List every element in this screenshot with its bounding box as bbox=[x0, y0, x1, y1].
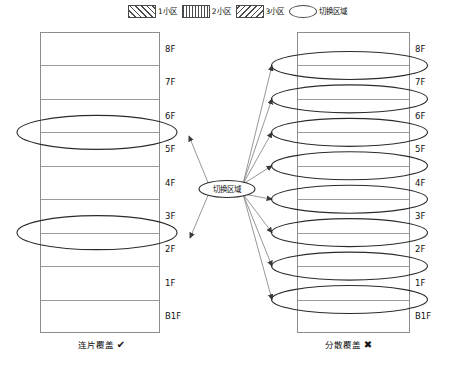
left-floor-label-4f: 4F bbox=[165, 178, 175, 188]
hatch-vertical-swatch-icon bbox=[182, 5, 210, 18]
floor-b1f bbox=[298, 301, 409, 334]
left-floor-label-3f: 3F bbox=[165, 211, 175, 221]
right-caption-text: 分散覆盖 bbox=[325, 340, 361, 350]
floor-7f bbox=[298, 66, 409, 99]
cross-icon: ✖ bbox=[364, 339, 372, 350]
floor-1f bbox=[298, 267, 409, 300]
right-floor-label-6f: 6F bbox=[415, 111, 425, 121]
ray-to-right-zone-4 bbox=[243, 166, 272, 184]
ray-to-right-zone-8 bbox=[243, 194, 272, 300]
floor-4f bbox=[298, 167, 409, 200]
floor-5f bbox=[298, 133, 409, 166]
legend: 1小区 2小区 3小区 切换区域 bbox=[128, 3, 347, 19]
handover-rays bbox=[189, 65, 272, 299]
ellipse-swatch-icon bbox=[289, 5, 317, 18]
check-icon: ✔ bbox=[117, 339, 125, 350]
floor-5f bbox=[41, 133, 159, 166]
floor-7f bbox=[41, 66, 159, 99]
floor-3f bbox=[298, 200, 409, 233]
legend-label-2: 2小区 bbox=[212, 7, 231, 16]
right-floor-label-b1f: B1F bbox=[415, 311, 431, 321]
right-floor-label-8f: 8F bbox=[415, 44, 425, 54]
left-floor-label-2f: 2F bbox=[165, 244, 175, 254]
ray-to-right-zone-3 bbox=[243, 132, 272, 184]
legend-item-2: 2小区 bbox=[182, 5, 231, 18]
floor-8f bbox=[298, 33, 409, 66]
left-floor-label-8f: 8F bbox=[165, 44, 175, 54]
right-building bbox=[297, 32, 410, 333]
right-floor-label-4f: 4F bbox=[415, 178, 425, 188]
right-building-caption: 分散覆盖 ✖ bbox=[325, 339, 372, 351]
floor-2f bbox=[298, 234, 409, 267]
left-floor-label-6f: 6F bbox=[165, 111, 175, 121]
hatch-forward-slash-swatch-icon bbox=[128, 5, 156, 18]
center-node-label: 切换区域 bbox=[213, 184, 242, 194]
right-floor-label-2f: 2F bbox=[415, 244, 425, 254]
legend-item-4: 切换区域 bbox=[289, 5, 347, 18]
floor-4f bbox=[41, 167, 159, 200]
ray-to-right-zone-2 bbox=[243, 99, 272, 184]
ray-to-right-zone-5 bbox=[243, 194, 272, 199]
hatch-back-slash-swatch-icon bbox=[236, 5, 264, 18]
left-caption-text: 连片覆盖 bbox=[78, 340, 114, 350]
left-floor-label-b1f: B1F bbox=[165, 311, 181, 321]
right-floor-label-5f: 5F bbox=[415, 144, 425, 154]
ray-to-right-zone-6 bbox=[243, 194, 272, 233]
left-building-caption: 连片覆盖 ✔ bbox=[78, 339, 125, 351]
center-handover-node bbox=[199, 181, 255, 198]
legend-label-1: 1小区 bbox=[158, 7, 177, 16]
left-building bbox=[40, 32, 160, 333]
diagram-canvas: 1小区 2小区 3小区 切换区域 8F7F6F5F4F3F2F1FB1F8F7F… bbox=[0, 0, 458, 375]
floor-6f bbox=[298, 100, 409, 133]
floor-8f bbox=[41, 33, 159, 66]
left-floor-label-7f: 7F bbox=[165, 77, 175, 87]
ray-to-right-zone-1 bbox=[243, 65, 272, 184]
right-floor-label-1f: 1F bbox=[415, 278, 425, 288]
legend-label-3: 3小区 bbox=[266, 7, 285, 16]
floor-6f bbox=[41, 100, 159, 133]
ray-to-left-zone-2 bbox=[190, 193, 209, 238]
floor-1f bbox=[41, 267, 159, 300]
floor-b1f bbox=[41, 301, 159, 334]
floor-2f bbox=[41, 234, 159, 267]
legend-item-1: 1小区 bbox=[128, 5, 177, 18]
legend-item-3: 3小区 bbox=[236, 5, 285, 18]
right-floor-label-3f: 3F bbox=[415, 211, 425, 221]
legend-label-4: 切换区域 bbox=[319, 7, 347, 16]
floor-3f bbox=[41, 200, 159, 233]
ray-to-left-zone-1 bbox=[189, 136, 209, 185]
left-floor-label-1f: 1F bbox=[165, 278, 175, 288]
ray-to-right-zone-7 bbox=[243, 194, 272, 266]
right-floor-label-7f: 7F bbox=[415, 77, 425, 87]
left-floor-label-5f: 5F bbox=[165, 144, 175, 154]
